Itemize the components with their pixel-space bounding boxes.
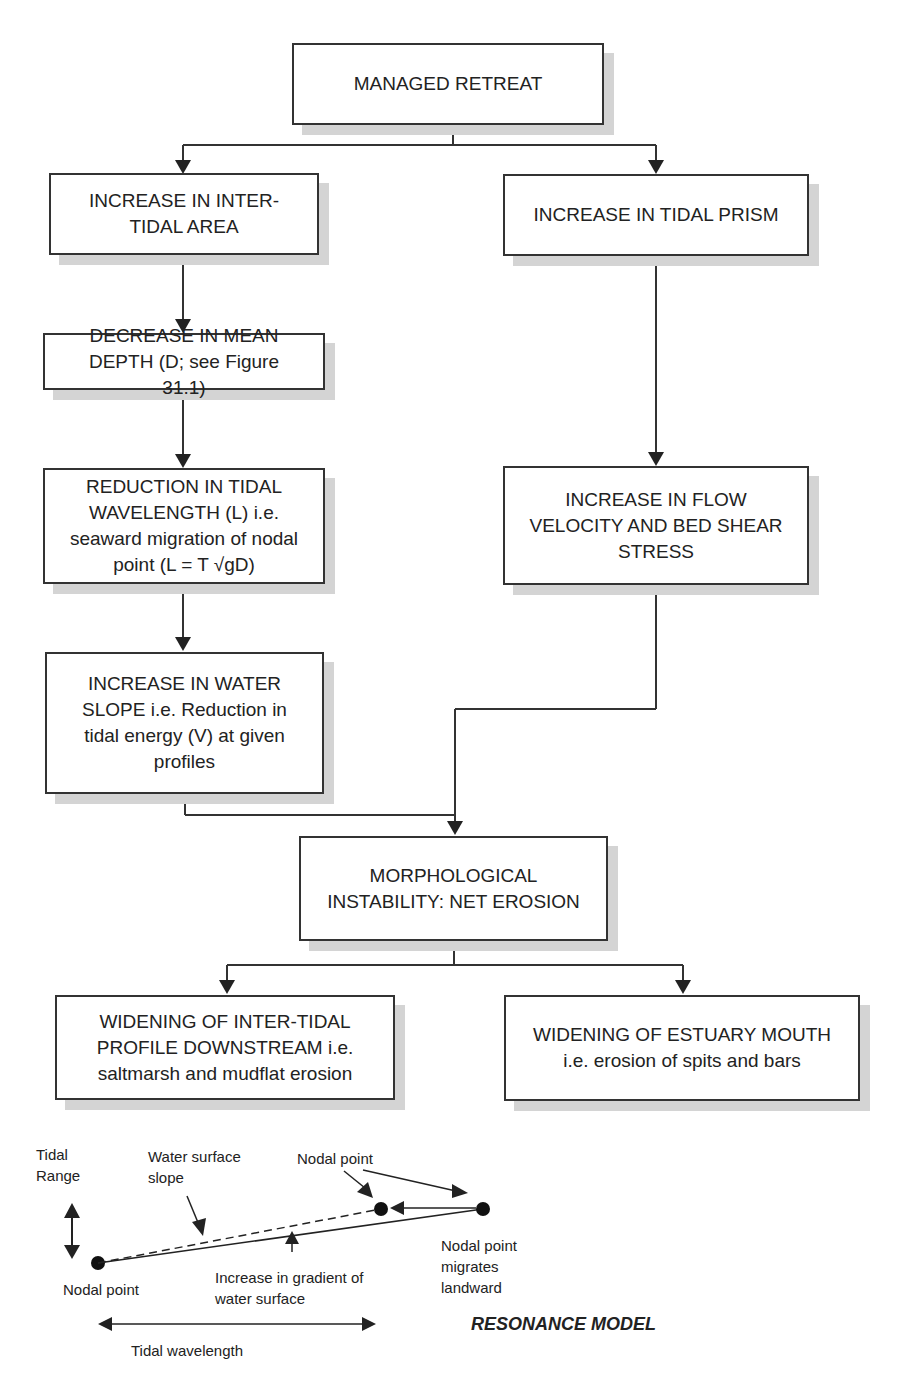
node-widening-mouth: WIDENING OF ESTUARY MOUTH i.e. erosion o… [504, 995, 860, 1101]
node-label: INCREASE IN TIDAL PRISM [534, 202, 779, 228]
node-label: WIDENING OF INTER-TIDAL PROFILE DOWNSTRE… [97, 1009, 354, 1087]
label-nodal-point-left: Nodal point [63, 1279, 139, 1300]
node-label: WIDENING OF ESTUARY MOUTH i.e. erosion o… [533, 1022, 831, 1074]
node-label: REDUCTION IN TIDAL WAVELENGTH (L) i.e. s… [70, 474, 298, 578]
node-inter-tidal-area: INCREASE IN INTER- TIDAL AREA [49, 173, 319, 255]
label-nodal-point-top: Nodal point [297, 1148, 373, 1169]
label-water-surface-slope: Water surface slope [148, 1146, 241, 1188]
node-label: INCREASE IN INTER- TIDAL AREA [89, 188, 279, 240]
resonance-model-title: RESONANCE MODEL [471, 1314, 656, 1335]
node-label: INCREASE IN FLOW VELOCITY AND BED SHEAR … [529, 487, 782, 565]
node-label: MANAGED RETREAT [354, 71, 543, 97]
node-label: DECREASE IN MEAN DEPTH (D; see Figure 31… [89, 323, 279, 401]
node-morphological-instability: MORPHOLOGICAL INSTABILITY: NET EROSION [299, 836, 608, 941]
label-tidal-range: Tidal Range [36, 1144, 80, 1186]
node-tidal-wavelength: REDUCTION IN TIDAL WAVELENGTH (L) i.e. s… [43, 468, 325, 584]
node-widening-intertidal: WIDENING OF INTER-TIDAL PROFILE DOWNSTRE… [55, 995, 395, 1100]
node-flow-velocity: INCREASE IN FLOW VELOCITY AND BED SHEAR … [503, 466, 809, 585]
node-label: INCREASE IN WATER SLOPE i.e. Reduction i… [82, 671, 287, 775]
label-tidal-wavelength: Tidal wavelength [131, 1340, 243, 1361]
label-nodal-migrates: Nodal point migrates landward [441, 1235, 517, 1298]
label-gradient-increase: Increase in gradient of water surface [215, 1267, 363, 1309]
node-water-slope: INCREASE IN WATER SLOPE i.e. Reduction i… [45, 652, 324, 794]
node-tidal-prism: INCREASE IN TIDAL PRISM [503, 174, 809, 256]
node-label: MORPHOLOGICAL INSTABILITY: NET EROSION [327, 863, 580, 915]
node-mean-depth: DECREASE IN MEAN DEPTH (D; see Figure 31… [43, 333, 325, 390]
node-managed-retreat: MANAGED RETREAT [292, 43, 604, 125]
